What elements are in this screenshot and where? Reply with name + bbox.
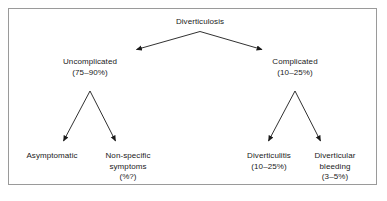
node-diverticulosis: Diverticulosis: [140, 17, 260, 28]
node-asymptomatic-label: Asymptomatic: [8, 151, 96, 162]
arrow-diverticulosis-to-uncomplicated: [137, 32, 201, 50]
arrow-complicated-to-diverticulitis: [269, 91, 296, 141]
arrow-uncomplicated-to-asymptomatic: [64, 91, 91, 141]
node-non-specific-symptoms: Non-specific symptoms (%?): [88, 151, 168, 183]
node-uncomplicated: Uncomplicated (75–90%): [30, 57, 150, 78]
node-complicated-label: Complicated: [235, 57, 355, 68]
diverticulosis-flowchart-figure: Diverticulosis Uncomplicated (75–90%) Co…: [0, 0, 387, 201]
arrow-uncomplicated-to-non-specific-symptoms: [90, 91, 116, 141]
node-uncomplicated-label: Uncomplicated: [30, 57, 150, 68]
arrow-diverticulosis-to-complicated: [200, 32, 262, 50]
node-non-specific-symptoms-value: (%?): [88, 172, 168, 183]
node-uncomplicated-value: (75–90%): [30, 68, 150, 79]
node-diverticular-bleeding-label-line1: Diverticular: [295, 151, 375, 162]
node-diverticular-bleeding-value: (3–5%): [295, 172, 375, 183]
node-complicated: Complicated (10–25%): [235, 57, 355, 78]
node-diverticular-bleeding-label-line2: bleeding: [295, 162, 375, 173]
node-asymptomatic: Asymptomatic: [8, 151, 96, 162]
arrow-complicated-to-diverticular-bleeding: [295, 91, 321, 141]
node-non-specific-symptoms-label-line2: symptoms: [88, 162, 168, 173]
node-complicated-value: (10–25%): [235, 68, 355, 79]
node-non-specific-symptoms-label-line1: Non-specific: [88, 151, 168, 162]
node-diverticular-bleeding: Diverticular bleeding (3–5%): [295, 151, 375, 183]
node-diverticulosis-label: Diverticulosis: [140, 17, 260, 28]
